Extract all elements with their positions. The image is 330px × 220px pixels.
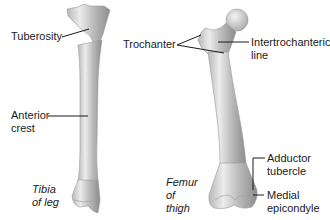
caption-femur-line1: Femur [166, 176, 198, 189]
label-anterior-crest: Anterior crest [11, 109, 50, 135]
caption-femur: Femur of thigh [166, 176, 198, 215]
label-medial-epicondyle: Medial epicondyle [267, 189, 320, 215]
label-intertrochanteric-line2: line [251, 49, 330, 62]
caption-femur-line3: thigh [166, 202, 198, 215]
label-intertrochanteric-line: Intertrochanteric line [251, 36, 330, 62]
label-trochanter: Trochanter [123, 38, 176, 51]
caption-tibia: Tibia of leg [32, 183, 59, 209]
leader-trochanter-upper [177, 35, 201, 45]
label-adductor-tubercle-line1: Adductor [267, 152, 311, 165]
tibia-bone [67, 4, 110, 213]
label-medial-epicondyle-line1: Medial [267, 189, 320, 202]
femur-bone [198, 9, 257, 209]
label-anterior-crest-line1: Anterior [11, 109, 50, 122]
caption-tibia-line1: Tibia [32, 183, 59, 196]
label-medial-epicondyle-line2: epicondyle [267, 202, 320, 215]
label-adductor-tubercle: Adductor tubercle [267, 152, 311, 178]
caption-tibia-line2: of leg [32, 196, 59, 209]
label-anterior-crest-line2: crest [11, 122, 50, 135]
caption-femur-line2: of [166, 189, 198, 202]
leader-tuberosity [62, 29, 89, 37]
label-intertrochanteric-line1: Intertrochanteric [251, 36, 330, 49]
label-tuberosity: Tuberosity [11, 30, 62, 43]
label-adductor-tubercle-line2: tubercle [267, 165, 311, 178]
